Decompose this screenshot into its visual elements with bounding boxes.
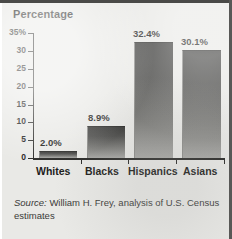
bar-value-hispanics: 32.4% (133, 29, 160, 39)
y-tick-label: 35% (2, 28, 26, 37)
bar-whites (39, 151, 77, 158)
y-tick-label: 15 (2, 100, 26, 109)
y-tick-label-wrap: 20 (0, 82, 26, 92)
y-tick-label-wrap: 10 (0, 117, 26, 127)
bar-blacks (87, 126, 125, 158)
bar-hispanics (134, 42, 173, 158)
y-tick-mark (28, 33, 34, 34)
y-tick-label: 0 (2, 153, 26, 162)
figure-right-border (229, 0, 232, 239)
y-tick-label-wrap: 35% (0, 28, 26, 38)
x-label-hispanics: Hispanics (128, 166, 178, 177)
y-tick-label: 25 (2, 64, 26, 73)
chart-figure: Percentage 35% 30 25 20 15 10 5 (0, 0, 232, 239)
x-tick-mark (128, 160, 129, 164)
x-tick-mark (224, 160, 225, 164)
source-label: Source: (14, 197, 47, 208)
figure-top-border (0, 0, 232, 3)
bar-value-blacks: 8.9% (88, 113, 110, 123)
y-tick-mark (28, 87, 34, 88)
x-tick-mark (81, 160, 82, 164)
y-tick-label-wrap: 15 (0, 100, 26, 110)
y-tick-mark (28, 140, 34, 141)
y-tick-mark (28, 51, 34, 52)
x-axis-line (33, 158, 225, 160)
x-tick-mark (176, 160, 177, 164)
y-tick-label-wrap: 30 (0, 46, 26, 56)
y-tick-mark (28, 122, 34, 123)
bar-asians (182, 50, 221, 158)
y-tick-mark (28, 69, 34, 70)
figure-left-edge (0, 0, 2, 239)
y-tick-label: 5 (2, 135, 26, 144)
chart-title: Percentage (13, 8, 73, 20)
bar-value-whites: 2.0% (40, 138, 62, 148)
source-note: Source: William H. Frey, analysis of U.S… (14, 196, 220, 222)
y-tick-label-wrap: 0 (0, 153, 26, 163)
x-label-whites: Whites (36, 166, 70, 177)
y-tick-label: 10 (2, 117, 26, 126)
y-tick-label: 20 (2, 82, 26, 91)
x-label-blacks: Blacks (85, 166, 119, 177)
y-tick-label-wrap: 25 (0, 64, 26, 74)
y-tick-label: 30 (2, 46, 26, 55)
y-tick-label-wrap: 5 (0, 135, 26, 145)
y-tick-mark (28, 105, 34, 106)
bar-value-asians: 30.1% (181, 37, 208, 47)
x-label-asians: Asians (183, 166, 217, 177)
y-tick-mark (28, 158, 34, 159)
